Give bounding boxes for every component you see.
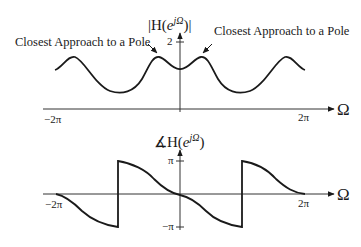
- phase-title: ∡H(ejΩ): [154, 133, 205, 150]
- magnitude-y-tick-label: 2: [167, 36, 173, 47]
- phase-title-suffix: ): [200, 134, 205, 150]
- annotation-right: Closest Approach to a Pole: [214, 25, 349, 38]
- phase-x-axis-label: Ω: [337, 186, 350, 203]
- annotation-left: Closest Approach to a Pole: [15, 36, 150, 49]
- phase-title-e: e: [183, 134, 190, 150]
- phase-title-sup: jΩ: [190, 132, 200, 143]
- phase-x-tick-right: 2π: [298, 198, 309, 209]
- phase-plot: [43, 150, 334, 230]
- phase-y-tick-top-label: π: [168, 155, 174, 166]
- magnitude-title-prefix: |H(: [148, 17, 167, 33]
- phase-x-tick-left: −2π: [45, 199, 62, 210]
- magnitude-title-sup: jΩ: [174, 15, 184, 26]
- phase-y-tick-bottom-label: −π: [162, 221, 174, 232]
- magnitude-title-suffix: )|: [184, 17, 192, 33]
- magnitude-title: |H(ejΩ)|: [148, 16, 192, 33]
- phase-title-prefix: ∡H(: [154, 134, 183, 150]
- magnitude-title-e: e: [167, 17, 174, 33]
- magnitude-x-tick-right: 2π: [298, 112, 309, 123]
- magnitude-x-axis-label: Ω: [337, 101, 350, 118]
- magnitude-x-tick-left: −2π: [44, 114, 61, 125]
- annotation-arrow-right: [203, 44, 212, 53]
